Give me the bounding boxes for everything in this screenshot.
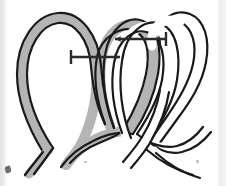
scan-artifact-left-edge xyxy=(0,0,7,186)
figure-canvas xyxy=(0,0,226,186)
scan-artifact-right-edge xyxy=(217,0,226,186)
scan-artifact-speck-secondary xyxy=(84,161,87,163)
scan-artifact-speck-tertiary xyxy=(196,160,199,163)
rope-loops-diagram xyxy=(0,0,226,186)
